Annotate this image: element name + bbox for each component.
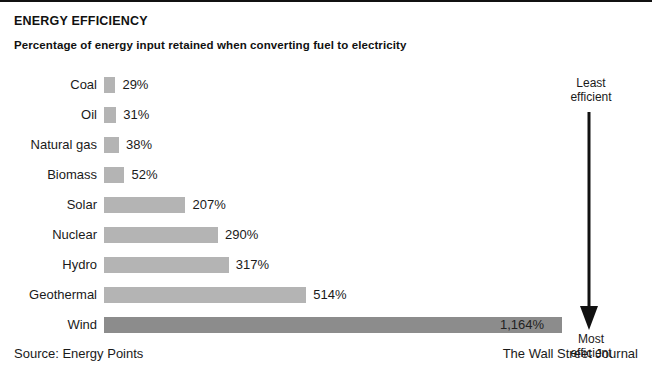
source-note: Source: Energy Points [14,346,143,361]
bar-row: Geothermal514% [0,280,652,310]
annotation-least-efficient: Least efficient [556,76,626,104]
bar-nuclear [104,227,218,243]
bar-row: Natural gas38% [0,130,652,160]
bar-hydro [104,257,229,273]
bar-row: Oil31% [0,100,652,130]
bar-value-label: 38% [126,130,152,160]
bar-value-label: 514% [313,280,346,310]
bar-coal [104,77,115,93]
bar-oil [104,107,116,123]
bar-solar [104,197,185,213]
bar-chart-plot-area: Coal29%Oil31%Natural gas38%Biomass52%Sol… [0,70,652,340]
down-arrow-icon [570,112,610,332]
bar-category-label: Nuclear [0,220,97,250]
bar-category-label: Natural gas [0,130,97,160]
bar-geothermal [104,287,306,303]
annotation-least-efficient-line2: efficient [556,90,626,104]
annotation-most-efficient-line1: Most [556,332,626,346]
bar-row: Hydro317% [0,250,652,280]
bar-category-label: Solar [0,190,97,220]
bar-category-label: Hydro [0,250,97,280]
bar-category-label: Oil [0,100,97,130]
bar-row: Wind1,164% [0,310,652,340]
bar-value-label: 31% [123,100,149,130]
bar-category-label: Geothermal [0,280,97,310]
bar-row: Coal29% [0,70,652,100]
annotation-least-efficient-line1: Least [556,76,626,90]
bar-value-label: 1,164% [500,310,544,340]
bar-row: Biomass52% [0,160,652,190]
bar-category-label: Wind [0,310,97,340]
chart-subtitle: Percentage of energy input retained when… [14,39,406,51]
bar-value-label: 317% [236,250,269,280]
bar-natural-gas [104,137,119,153]
bar-value-label: 207% [192,190,225,220]
bar-wind [104,317,562,333]
bar-value-label: 290% [225,220,258,250]
bar-category-label: Coal [0,70,97,100]
page-title: ENERGY EFFICIENCY [14,14,148,28]
bar-category-label: Biomass [0,160,97,190]
bar-value-label: 29% [122,70,148,100]
chart-frame: ENERGY EFFICIENCY Percentage of energy i… [0,0,652,375]
bar-row: Nuclear290% [0,220,652,250]
bar-value-label: 52% [131,160,157,190]
bar-row: Solar207% [0,190,652,220]
bar-biomass [104,167,124,183]
publication-credit: The Wall Street Journal [503,346,638,361]
